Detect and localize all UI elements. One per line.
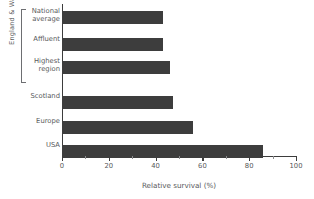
x-tick-major-0 bbox=[62, 156, 63, 161]
x-tick-major-20 bbox=[109, 156, 110, 161]
x-tick-minor-90 bbox=[273, 156, 274, 159]
x-tick-major-60 bbox=[202, 156, 203, 161]
category-label-scotland: Scotland bbox=[14, 93, 60, 101]
relative-survival-bar-chart: England & Wales National average Affluen… bbox=[0, 0, 314, 199]
x-tick-major-40 bbox=[156, 156, 157, 161]
category-label-affluent: Affluent bbox=[14, 36, 60, 44]
x-tick-label-100: 100 bbox=[290, 162, 303, 170]
x-tick-minor-10 bbox=[85, 156, 86, 159]
category-label-usa: USA bbox=[14, 142, 60, 150]
bar-affluent bbox=[62, 38, 163, 51]
x-tick-minor-30 bbox=[132, 156, 133, 159]
x-tick-label-80: 80 bbox=[245, 162, 254, 170]
x-tick-minor-70 bbox=[226, 156, 227, 159]
category-label-highest-region: Highest region bbox=[14, 58, 60, 73]
bar-national-average bbox=[62, 11, 163, 24]
bar-scotland bbox=[62, 96, 173, 109]
plot-area: 020406080100 bbox=[62, 4, 296, 156]
bar-usa bbox=[62, 145, 263, 158]
x-tick-minor-50 bbox=[179, 156, 180, 159]
category-label-national-average: National average bbox=[14, 8, 60, 23]
x-tick-major-80 bbox=[249, 156, 250, 161]
x-tick-label-0: 0 bbox=[60, 162, 64, 170]
x-tick-label-40: 40 bbox=[151, 162, 160, 170]
category-label-column: National average Affluent Highest region… bbox=[12, 0, 60, 160]
x-tick-label-20: 20 bbox=[104, 162, 113, 170]
bar-europe bbox=[62, 121, 193, 134]
bar-highest-region bbox=[62, 61, 170, 74]
x-tick-major-100 bbox=[296, 156, 297, 161]
x-axis-title: Relative survival (%) bbox=[62, 181, 296, 190]
category-label-europe: Europe bbox=[14, 118, 60, 126]
x-tick-label-60: 60 bbox=[198, 162, 207, 170]
